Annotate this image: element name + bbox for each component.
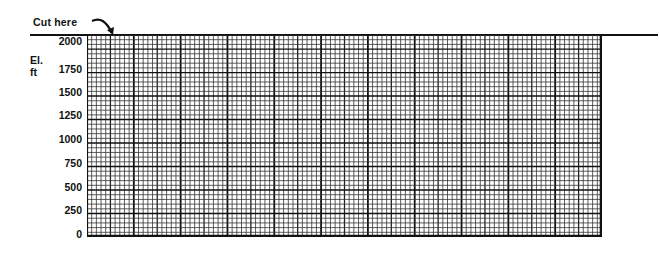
y-tick-label: 1000 xyxy=(59,133,82,145)
grid-lines xyxy=(87,35,602,237)
y-tick-label: 750 xyxy=(64,157,82,169)
y-tick-label: 1500 xyxy=(59,86,82,98)
y-tick-label: 500 xyxy=(64,181,82,193)
curved-arrow-icon xyxy=(90,15,126,37)
y-tick-label: 1750 xyxy=(59,63,82,75)
graph-paper-grid xyxy=(87,35,602,237)
y-tick-label: 2000 xyxy=(59,35,82,47)
y-tick-label: 1250 xyxy=(59,109,82,121)
y-tick-label: 250 xyxy=(64,204,82,216)
y-axis-labels: 200017501500125010007505002500 xyxy=(30,0,82,257)
y-tick-label: 0 xyxy=(76,228,82,240)
